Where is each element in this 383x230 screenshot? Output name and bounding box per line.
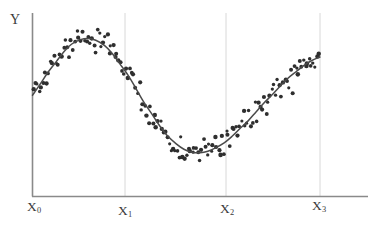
scatter-point [199, 148, 203, 152]
scatter-point [217, 148, 221, 152]
scatter-point [220, 134, 224, 138]
scatter-point [234, 125, 238, 128]
scatter-point [56, 63, 60, 67]
scatter-point [179, 135, 182, 138]
scatter-point [138, 80, 142, 84]
scatter-point [240, 119, 243, 122]
x-tick-label-x3-subscript: 3 [322, 205, 326, 214]
scatter-point [139, 108, 142, 111]
scatter-point [225, 129, 228, 132]
x-tick-label-x3-text: X [312, 198, 322, 213]
scatter-point [159, 119, 162, 122]
scatter-point [71, 48, 75, 52]
scatter-point [148, 105, 152, 109]
scatter-point [260, 107, 264, 111]
scatter-point [151, 122, 155, 126]
scatter-point [228, 144, 232, 148]
scatter-point [198, 159, 202, 163]
scatter-point [76, 29, 80, 33]
scatter-point [247, 109, 250, 112]
scatter-point [308, 57, 312, 61]
x-tick-label-x1-subscript: 1 [128, 210, 132, 219]
x-tick-label-x2-subscript: 2 [230, 208, 234, 217]
scatter-point [183, 157, 187, 161]
scatter-point [262, 95, 266, 99]
scatter-point [111, 43, 115, 47]
scatter-point [249, 124, 253, 128]
scatter-points-group [32, 28, 321, 163]
scatter-point [88, 41, 91, 44]
scatter-point [38, 90, 42, 94]
scatter-point [122, 72, 126, 76]
x-tick-label-x2-text: X [220, 201, 230, 216]
scatter-point [147, 121, 151, 125]
scatter-point [131, 72, 135, 76]
scatter-point [96, 28, 100, 32]
scatter-point [99, 45, 102, 48]
scatter-point [313, 65, 316, 68]
scatter-point [93, 43, 97, 47]
scatter-point [251, 121, 255, 125]
scatter-point [128, 67, 132, 71]
scatter-point [272, 83, 275, 86]
scatter-point [271, 87, 274, 90]
scatter-point [98, 31, 101, 34]
scatter-point [64, 38, 68, 42]
scatter-point [109, 44, 112, 47]
scatter-point [210, 143, 214, 147]
scatter-point [222, 152, 226, 156]
x-tick-label-x3: X3 [312, 199, 326, 213]
chart-plot-area [0, 0, 383, 230]
scatter-point [311, 61, 314, 64]
scatter-point [153, 125, 158, 130]
scatter-point [242, 109, 246, 113]
scatter-point [213, 135, 217, 139]
scatter-point [106, 32, 110, 36]
scatter-point [256, 101, 260, 105]
y-axis-label: Y [10, 13, 20, 27]
scatter-point [298, 59, 302, 63]
gridlines [125, 13, 320, 196]
scatter-point [309, 64, 313, 68]
scatter-point [168, 142, 171, 145]
x-tick-label-x0: X0 [27, 200, 41, 214]
scatter-point [114, 52, 118, 56]
scatter-point [317, 52, 321, 56]
scatter-point [52, 54, 56, 58]
scatter-point [68, 38, 72, 42]
chart-figure: Y X0 X1 X2 X3 [0, 0, 383, 230]
scatter-point [235, 133, 239, 137]
scatter-point [103, 35, 106, 38]
x-tick-label-x0-subscript: 0 [37, 206, 41, 215]
x-tick-label-x0-text: X [27, 199, 37, 214]
scatter-point [44, 81, 48, 85]
scatter-point [275, 78, 278, 81]
scatter-point [204, 145, 208, 149]
x-tick-label-x1-text: X [118, 203, 128, 218]
scatter-point [225, 133, 229, 137]
scatter-point [185, 154, 188, 157]
scatter-point [194, 146, 198, 150]
scatter-point [144, 113, 148, 117]
scatter-point [80, 30, 84, 34]
scatter-point [291, 91, 295, 95]
scatter-point [279, 95, 283, 99]
scatter-point [207, 142, 210, 145]
scatter-point [274, 94, 277, 97]
scatter-point [302, 58, 305, 61]
scatter-point [94, 51, 98, 55]
scatter-point [255, 120, 259, 124]
x-tick-label-x2: X2 [220, 202, 234, 216]
scatter-point [206, 153, 209, 156]
scatter-point [202, 137, 206, 141]
scatter-point [35, 82, 38, 85]
x-tick-label-x1: X1 [118, 204, 132, 218]
scatter-point [67, 55, 71, 59]
scatter-point [296, 72, 301, 77]
scatter-point [289, 68, 293, 72]
scatter-point [176, 149, 180, 153]
scatter-point [287, 86, 290, 89]
scatter-point [265, 112, 269, 116]
